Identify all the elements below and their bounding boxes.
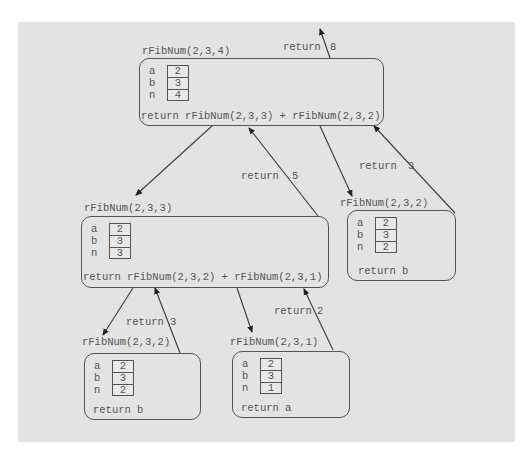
var-value: 2 [167, 65, 189, 77]
frame-title-call-4: rFibNum(2,3,4) [142, 45, 230, 57]
var-value: 3 [167, 77, 189, 89]
return-label: return [283, 41, 321, 53]
activation-frame-call-2-right: a 2 b 3 n 2 return b [347, 210, 456, 281]
var-value: 3 [260, 370, 282, 382]
var-name: n [91, 247, 109, 259]
var-value: 2 [112, 360, 134, 372]
activation-frame-call-4: a 2 b 3 n 4 return rFibNum(2,3,3) + rFib… [139, 58, 384, 126]
var-name: a [91, 223, 109, 235]
var-name: a [94, 360, 112, 372]
activation-frame-call-3: a 2 b 3 n 3 return rFibNum(2,3,2) + rFib… [81, 216, 329, 288]
var-name: b [94, 372, 112, 384]
return-statement: return b [358, 265, 408, 277]
return-label: return [274, 305, 312, 317]
return-label: return [359, 160, 397, 172]
return-statement: return a [241, 402, 291, 414]
var-value: 3 [109, 247, 131, 259]
return-value: 3 [170, 316, 176, 328]
var-name: b [149, 77, 167, 89]
return-value: 2 [317, 305, 323, 317]
call-arrow-to-2-right [320, 126, 352, 196]
return-statement: return rFibNum(2,3,2) + rFibNum(2,3,1) [83, 271, 322, 283]
var-value: 3 [375, 229, 397, 241]
return-value: 8 [330, 41, 336, 53]
var-value: 2 [260, 358, 282, 370]
call-arrow-to-3 [136, 126, 212, 195]
var-value: 2 [112, 384, 134, 396]
var-name: n [149, 89, 167, 101]
activation-frame-call-2-left: a 2 b 3 n 2 return b [84, 353, 201, 420]
var-value: 3 [112, 372, 134, 384]
var-name: n [94, 384, 112, 396]
var-value: 1 [260, 382, 282, 394]
var-value: 2 [375, 241, 397, 253]
var-name: b [242, 370, 260, 382]
var-name: n [357, 241, 375, 253]
var-name: n [242, 382, 260, 394]
return-arrow-8 [320, 29, 330, 58]
return-statement: return rFibNum(2,3,3) + rFibNum(2,3,2) [141, 110, 380, 122]
return-label: return [241, 170, 279, 182]
frame-title-call-2-right: rFibNum(2,3,2) [340, 197, 428, 209]
frame-title-call-2-left: rFibNum(2,3,2) [82, 336, 170, 348]
activation-frame-call-1: a 2 b 3 n 1 return a [232, 351, 350, 418]
var-name: b [357, 229, 375, 241]
call-arrow-to-1 [237, 288, 252, 332]
var-name: b [91, 235, 109, 247]
frame-title-call-3: rFibNum(2,3,3) [84, 202, 172, 214]
var-value: 4 [167, 89, 189, 101]
return-label: return [126, 316, 164, 328]
var-name: a [357, 217, 375, 229]
frame-title-call-1: rFibNum(2,3,1) [230, 336, 318, 348]
var-value: 2 [375, 217, 397, 229]
return-value: 5 [292, 170, 298, 182]
var-name: a [149, 65, 167, 77]
return-statement: return b [93, 404, 143, 416]
var-name: a [242, 358, 260, 370]
var-value: 3 [109, 235, 131, 247]
return-value: 3 [408, 160, 414, 172]
var-value: 2 [109, 223, 131, 235]
